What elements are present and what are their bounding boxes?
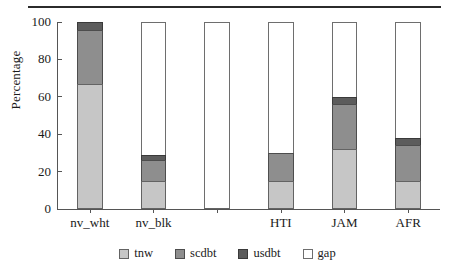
y-axis-label: Percentage bbox=[8, 20, 24, 140]
bar-segment-scdbt bbox=[141, 160, 166, 181]
y-axis-tick: 80 bbox=[38, 51, 58, 67]
stacked-bar[interactable] bbox=[141, 22, 166, 209]
bar-segment-usdbt bbox=[332, 97, 357, 104]
bar-segment-scdbt bbox=[332, 104, 357, 149]
x-axis-label: AFR bbox=[396, 215, 421, 231]
y-axis-tick: 40 bbox=[38, 126, 58, 142]
x-axis-tick bbox=[344, 209, 345, 213]
stacked-bar[interactable] bbox=[395, 22, 420, 209]
figure: Percentage 020406080100nv_whtnv_blkHTIJA… bbox=[0, 0, 455, 277]
chart-legend: tnwscdbtusdbtgap bbox=[0, 246, 455, 261]
bar-slot: nv_blk bbox=[122, 22, 186, 209]
x-axis-label: HTI bbox=[270, 215, 292, 231]
legend-swatch-tnw bbox=[119, 249, 129, 259]
x-axis-label: JAM bbox=[331, 215, 357, 231]
x-axis-tick bbox=[408, 209, 409, 213]
legend-item[interactable]: gap bbox=[303, 246, 336, 261]
y-axis-tick: 60 bbox=[38, 89, 58, 105]
bar-slot: JAM bbox=[313, 22, 377, 209]
bar-segment-usdbt bbox=[395, 138, 420, 145]
y-axis-tick: 0 bbox=[45, 201, 59, 217]
bar-segment-tnw bbox=[332, 149, 357, 209]
bar-segment-scdbt bbox=[395, 145, 420, 181]
x-axis-label: nv_blk bbox=[135, 215, 171, 231]
legend-item[interactable]: scdbt bbox=[175, 246, 216, 261]
top-rule bbox=[28, 6, 441, 8]
bar-segment-gap bbox=[268, 22, 293, 153]
bar-segment-gap bbox=[204, 22, 229, 209]
x-axis-tick bbox=[153, 209, 154, 213]
bar-segment-usdbt bbox=[77, 22, 102, 29]
legend-label: usdbt bbox=[253, 246, 280, 261]
legend-item[interactable]: tnw bbox=[119, 246, 153, 261]
legend-swatch-scdbt bbox=[175, 249, 185, 259]
legend-label: tnw bbox=[134, 246, 153, 261]
legend-item[interactable]: usdbt bbox=[238, 246, 280, 261]
bar-slot: AFR bbox=[376, 22, 440, 209]
legend-label: gap bbox=[318, 246, 336, 261]
bar-segment-scdbt bbox=[77, 30, 102, 84]
legend-swatch-usdbt bbox=[238, 249, 248, 259]
bar-segment-gap bbox=[332, 22, 357, 97]
y-axis-tick: 100 bbox=[32, 14, 59, 30]
stacked-bar[interactable] bbox=[204, 22, 229, 209]
bar-segment-tnw bbox=[77, 84, 102, 209]
y-axis-tick: 20 bbox=[38, 164, 58, 180]
bar-slot: nv_wht bbox=[58, 22, 122, 209]
x-axis-tick bbox=[90, 209, 91, 213]
bar-segment-tnw bbox=[141, 181, 166, 209]
stacked-bar[interactable] bbox=[332, 22, 357, 209]
stacked-bar[interactable] bbox=[268, 22, 293, 209]
bar-segment-scdbt bbox=[268, 153, 293, 181]
bar-segment-gap bbox=[141, 22, 166, 155]
bar-segment-gap bbox=[395, 22, 420, 138]
x-axis-tick bbox=[281, 209, 282, 213]
legend-swatch-gap bbox=[303, 249, 313, 259]
legend-label: scdbt bbox=[190, 246, 216, 261]
x-axis-tick bbox=[217, 209, 218, 213]
bar-slot: HTI bbox=[249, 22, 313, 209]
bar-slot bbox=[185, 22, 249, 209]
bar-segment-tnw bbox=[395, 181, 420, 209]
x-axis-label: nv_wht bbox=[70, 215, 109, 231]
stacked-bar[interactable] bbox=[77, 22, 102, 209]
bar-segment-tnw bbox=[268, 181, 293, 209]
plot-area: 020406080100nv_whtnv_blkHTIJAMAFR bbox=[57, 22, 440, 210]
